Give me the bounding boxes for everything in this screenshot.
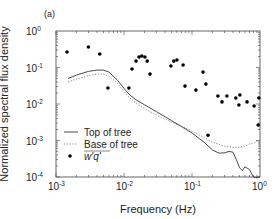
x-axis-title: Frequency (Hz)	[120, 203, 196, 215]
y-tick-label: 10-1	[26, 62, 43, 74]
data-point	[169, 64, 173, 68]
dot-marker-swatch-icon	[68, 154, 72, 158]
data-point	[257, 96, 261, 100]
legend-label: Top of tree	[84, 127, 132, 138]
data-point	[143, 55, 147, 59]
data-point	[145, 59, 149, 63]
legend: Top of tree Base of tree w'q'	[64, 127, 138, 162]
data-point	[106, 86, 110, 90]
x-tick-label: 10-1	[184, 180, 201, 192]
data-point	[245, 100, 249, 104]
data-point	[140, 54, 144, 58]
x-tick-label: 10-3	[48, 180, 65, 192]
chart: (a) 10010-110-210-310-4 10-310-210-1100 …	[0, 0, 279, 219]
data-point	[148, 72, 152, 76]
data-point	[201, 70, 205, 74]
panel-label: (a)	[44, 9, 55, 19]
data-point	[237, 103, 241, 107]
legend-item-base-of-tree: Base of tree	[64, 139, 138, 150]
data-point	[130, 67, 134, 71]
y-tick-label: 10-4	[26, 171, 43, 183]
legend-item-top-of-tree: Top of tree	[64, 127, 132, 138]
data-point	[216, 94, 220, 98]
data-point	[183, 84, 187, 88]
y-tick-label: 100	[26, 25, 41, 37]
data-point	[252, 104, 256, 108]
data-point	[181, 63, 185, 67]
data-point	[98, 52, 102, 56]
data-point	[65, 50, 69, 54]
data-point	[175, 58, 179, 62]
x-tick-labels: 10-310-210-1100	[48, 180, 267, 192]
x-tick-label: 10-2	[116, 180, 133, 192]
data-point	[172, 59, 176, 63]
data-point	[225, 94, 229, 98]
y-tick-label: 10-2	[26, 98, 43, 110]
data-point	[87, 45, 91, 49]
data-point	[220, 100, 224, 104]
legend-label: w'q'	[84, 151, 102, 162]
data-point	[134, 59, 138, 63]
data-point	[256, 123, 260, 127]
y-axis-title: Normalized spectral flux density	[0, 26, 10, 182]
y-tick-label: 10-3	[26, 135, 43, 147]
x-tick-label: 100	[252, 180, 267, 192]
data-point	[234, 96, 238, 100]
data-point	[238, 93, 242, 97]
data-point	[127, 86, 131, 90]
data-point	[194, 88, 198, 92]
data-point	[206, 133, 210, 137]
legend-label: Base of tree	[84, 139, 138, 150]
legend-item-wq: w'q'	[68, 151, 110, 162]
data-point	[204, 82, 208, 86]
y-tick-labels: 10010-110-210-310-4	[26, 25, 43, 183]
series-wq-markers	[65, 45, 260, 137]
